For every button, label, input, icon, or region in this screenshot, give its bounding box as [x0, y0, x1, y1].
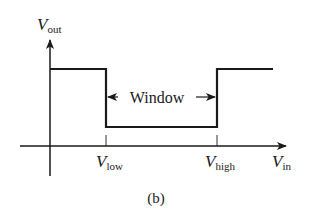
figure-caption: (b) [147, 190, 165, 207]
x-axis-label: Vin [272, 152, 291, 172]
v-low-label: Vlow [96, 152, 123, 172]
window-label: Window [130, 89, 185, 106]
y-axis-label: Vout [37, 15, 61, 35]
window-comparator-diagram: Window Vout Vin Vlow Vhigh (b) [0, 0, 312, 224]
v-high-label: Vhigh [205, 152, 235, 172]
